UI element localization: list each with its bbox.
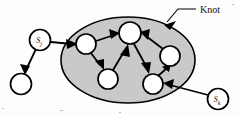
knot-callout: Knot xyxy=(164,4,220,30)
diagram-canvas: Sj Sk Knot xyxy=(0,0,242,115)
knot-callout-label: Knot xyxy=(200,4,220,15)
node-d xyxy=(160,46,180,66)
node-a xyxy=(76,34,96,54)
node-sk-label-sub: k xyxy=(218,100,221,106)
node-e xyxy=(143,74,163,94)
node-c xyxy=(98,69,118,89)
node-sj-label-sub: j xyxy=(39,41,42,47)
knot-diagram-figure: Sj Sk Knot xyxy=(0,0,242,115)
node-external xyxy=(11,74,32,95)
knot-callout-leader-line xyxy=(167,9,196,22)
node-b xyxy=(119,22,141,44)
